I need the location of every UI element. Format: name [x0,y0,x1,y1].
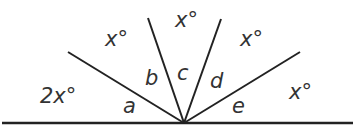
label-x-4: x° [288,80,312,104]
label-x-3: x° [239,27,263,51]
label-d: d [210,69,224,93]
label-x-2: x° [174,8,198,32]
label-b: b [145,66,158,90]
label-a: a [123,94,136,118]
label-x-1: x° [104,27,128,51]
label-2x: 2x° [40,84,76,108]
angle-diagram: 2x° x° x° x° x° a b c d e [0,0,353,125]
label-c: c [177,61,189,85]
label-e: e [232,94,245,118]
